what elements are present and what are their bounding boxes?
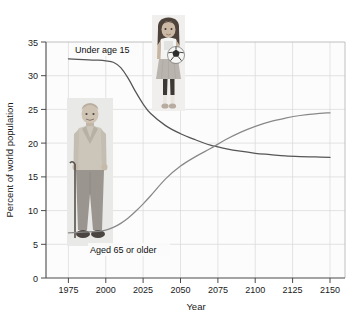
young-girl-photo [152, 15, 185, 111]
x-tick-label: 2075 [208, 285, 228, 295]
x-tick-label: 1975 [58, 285, 78, 295]
x-tick-label: 2100 [245, 285, 265, 295]
y-tick-label: 20 [28, 139, 38, 149]
y-tick-label: 25 [28, 105, 38, 115]
population-projection-chart: 35 30 25 20 15 10 5 0 1975 2000 2025 205… [0, 0, 357, 319]
y-axis-title: Percent of world population [4, 102, 15, 217]
aged-65-or-older-label: Aged 65 or older [90, 245, 157, 255]
elderly-man-photo [67, 98, 113, 246]
y-tick-label: 0 [33, 274, 38, 284]
under-age-15-annotation: Under age 15 [72, 43, 139, 56]
x-tick-label: 2000 [96, 285, 116, 295]
x-tick-labels: 1975 2000 2025 2050 2075 2100 2125 2150 [58, 285, 340, 295]
x-tick-label: 2025 [133, 285, 153, 295]
y-tick-label: 30 [28, 71, 38, 81]
y-tick-label: 15 [28, 172, 38, 182]
x-tick-label: 2150 [320, 285, 340, 295]
x-axis-title: Year [186, 301, 205, 312]
y-tick-label: 10 [28, 206, 38, 216]
under-age-15-label: Under age 15 [75, 45, 130, 55]
x-tick-label: 2050 [170, 285, 190, 295]
y-tick-label: 5 [33, 240, 38, 250]
y-tick-label: 35 [28, 38, 38, 48]
y-axis-ticks [41, 42, 46, 278]
x-axis-ticks [68, 278, 330, 283]
y-tick-labels: 35 30 25 20 15 10 5 0 [28, 38, 38, 284]
aged-65-or-older-annotation: Aged 65 or older [88, 243, 170, 256]
chart-figure: 35 30 25 20 15 10 5 0 1975 2000 2025 205… [0, 0, 357, 319]
x-tick-label: 2125 [283, 285, 303, 295]
